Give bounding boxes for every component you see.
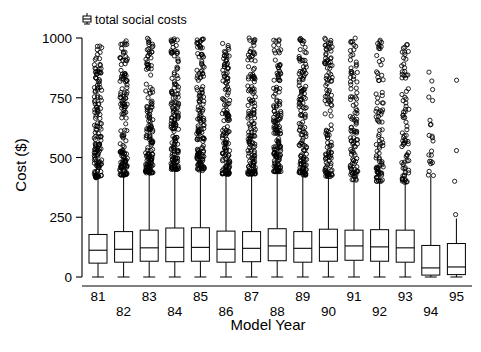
outlier-point [298,48,302,52]
outlier-point [454,78,458,82]
y-tick-label: 1000 [42,31,72,46]
outlier-point [375,53,379,57]
outlier-point [329,127,333,131]
outlier-point [221,41,225,45]
outlier-point [99,98,103,102]
box [422,245,440,275]
outlier-point [430,79,434,83]
outlier-point [355,91,359,95]
x-tick-label: 87 [244,289,259,304]
outlier-point [124,122,128,126]
box [217,231,235,262]
outlier-point [176,76,180,80]
y-tick-label: 750 [49,91,72,106]
outlier-point [272,43,276,47]
outlier-point [429,149,433,153]
outlier-point [328,109,332,113]
box [268,229,286,261]
outlier-point [349,87,353,91]
outlier-point [329,123,333,127]
boxplot-group [89,44,107,277]
outlier-point [430,87,434,91]
x-axis-title: Model Year [230,316,305,333]
outlier-point [323,112,327,116]
outlier-point [354,86,358,90]
x-tick-label: 82 [116,304,131,319]
outlier-point [376,71,380,75]
y-axis-title: Cost ($) [12,138,29,191]
box [115,232,133,263]
outlier-point [273,58,277,62]
boxplot-chart: 02505007501000Cost ($)Model Year81828384… [0,0,481,352]
x-tick-label: 90 [321,304,336,319]
boxplot-group [243,36,261,277]
boxplot-group [294,36,312,277]
legend: total social costs [83,13,187,27]
outlier-point [272,78,276,82]
outlier-point [246,65,250,69]
outlier-point [329,49,333,53]
outlier-point [176,127,180,131]
box [243,232,261,262]
x-tick-label: 93 [398,289,413,304]
outlier-point [146,96,150,100]
boxplot-group [268,38,286,277]
outlier-point [303,45,307,49]
x-tick-label: 91 [346,289,361,304]
x-tick-label: 92 [372,304,387,319]
boxplot-group [115,39,133,277]
x-tick-labels: 818283848586878889909192939495 [90,289,463,319]
box [294,232,312,263]
x-tick-label: 81 [90,289,105,304]
x-tick-label: 89 [295,289,310,304]
outlier-point [202,65,206,69]
outlier-point [144,82,148,86]
legend-label: total social costs [95,13,187,27]
x-tick-label: 94 [423,304,439,319]
outlier-point [195,68,199,72]
boxplot-group [422,70,440,277]
outlier-point [174,43,178,47]
box [371,230,389,262]
x-tick-label: 88 [270,304,285,319]
boxplot-group [345,36,363,277]
outlier-point [454,148,458,152]
outlier-point [381,78,385,82]
outlier-point [252,66,256,70]
boxplot-group [396,43,414,277]
x-tick-label: 84 [167,304,183,319]
box [191,228,209,261]
outlier-point [144,89,148,93]
outlier-point [376,96,380,100]
x-tick-label: 95 [449,289,464,304]
box [447,244,465,275]
outlier-point [304,84,308,88]
outlier-point [374,70,378,74]
outlier-point [355,70,359,74]
outlier-point [404,120,408,124]
outlier-point [431,173,435,177]
outlier-point [454,213,458,217]
box [345,230,363,260]
outlier-point [355,80,359,84]
box [166,228,184,262]
box [140,230,158,261]
outlier-point [119,62,123,66]
boxplot-group [166,37,184,277]
outlier-point [170,76,174,80]
outlier-point [453,179,457,183]
outlier-point [246,103,250,107]
x-tick-label: 86 [218,304,233,319]
box [396,230,414,262]
outlier-point [427,95,431,99]
y-tick-label: 250 [49,210,72,225]
x-tick-label: 85 [193,289,208,304]
box [319,229,337,261]
boxplot-group [319,36,337,277]
outlier-point [149,73,153,77]
outlier-point [329,93,333,97]
outlier-point [428,118,432,122]
outlier-point [375,107,379,111]
outlier-point [430,98,434,102]
outlier-point [349,83,353,87]
